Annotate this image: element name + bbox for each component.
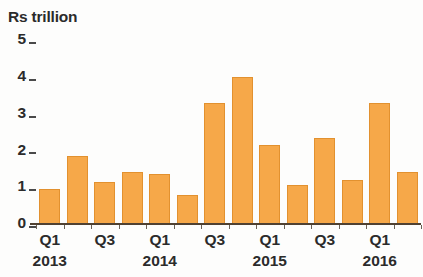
- bar[interactable]: [94, 182, 115, 224]
- bar-slot: [311, 40, 339, 224]
- x-axis-tick: [146, 225, 147, 229]
- bar-slot: [256, 40, 284, 224]
- x-axis-year-label: 2015: [253, 252, 287, 270]
- x-axis-year-label: 2014: [143, 252, 177, 270]
- x-axis-tick: [421, 225, 422, 229]
- bar-slot: [284, 40, 312, 224]
- y-axis: 543210: [0, 40, 36, 224]
- x-axis-tick: [311, 225, 312, 229]
- y-axis-tick-dash: [29, 189, 36, 191]
- plot-area: [36, 40, 421, 224]
- y-axis-tick-label: 1: [17, 178, 26, 194]
- x-axis-label: Q1: [259, 231, 280, 249]
- x-axis-label: Q3: [204, 231, 225, 249]
- bar-slot: [146, 40, 174, 224]
- bar-slot: [91, 40, 119, 224]
- y-axis-tick-label: 5: [17, 31, 26, 47]
- y-axis-tick-label: 3: [17, 105, 26, 121]
- x-axis-tick: [366, 225, 367, 229]
- x-axis-tick: [229, 225, 230, 229]
- x-axis-tick: [339, 225, 340, 229]
- x-axis-label: Q1: [39, 231, 60, 249]
- y-axis-tick-label: 2: [17, 142, 26, 158]
- x-axis-tick: [91, 225, 92, 229]
- bar[interactable]: [232, 77, 253, 224]
- bar-slot: [229, 40, 257, 224]
- x-axis-label: Q3: [314, 231, 335, 249]
- bar[interactable]: [369, 103, 390, 224]
- bar-slot: [174, 40, 202, 224]
- bar[interactable]: [342, 180, 363, 224]
- bars-layer: [36, 40, 421, 224]
- x-axis-tick: [284, 225, 285, 229]
- x-axis-labels: Q1Q3Q1Q3Q1Q3Q1: [36, 231, 421, 253]
- bar[interactable]: [149, 174, 170, 224]
- bar-slot: [366, 40, 394, 224]
- bar[interactable]: [314, 138, 335, 224]
- x-axis-tick: [64, 225, 65, 229]
- y-axis-tick-dash: [29, 42, 36, 44]
- bar[interactable]: [204, 103, 225, 224]
- x-axis-label: Q3: [94, 231, 115, 249]
- bar-slot: [36, 40, 64, 224]
- x-axis-tick: [256, 225, 257, 229]
- bar-slot: [119, 40, 147, 224]
- x-axis-ticks: [36, 225, 421, 229]
- x-axis-tick: [119, 225, 120, 229]
- y-axis-tick-dash: [29, 152, 36, 154]
- bar[interactable]: [177, 195, 198, 224]
- y-axis-tick-dash: [29, 116, 36, 118]
- chart-title: Rs trillion: [8, 8, 77, 26]
- y-axis-tick-label: 4: [17, 68, 26, 84]
- x-axis-tick: [36, 225, 37, 229]
- bar[interactable]: [67, 156, 88, 224]
- x-axis-label: Q1: [369, 231, 390, 249]
- bar-slot: [64, 40, 92, 224]
- x-axis-tick: [201, 225, 202, 229]
- bar[interactable]: [397, 172, 418, 224]
- bar-slot: [201, 40, 229, 224]
- bar[interactable]: [287, 185, 308, 224]
- y-axis-tick-label: 0: [17, 215, 26, 231]
- bar[interactable]: [259, 145, 280, 224]
- y-axis-tick-dash: [29, 79, 36, 81]
- x-axis-tick: [394, 225, 395, 229]
- bar-chart: Rs trillion 543210 Q1Q3Q1Q3Q1Q3Q1 201320…: [0, 0, 423, 277]
- bar-slot: [339, 40, 367, 224]
- x-axis-year-label: 2013: [33, 252, 67, 270]
- bar[interactable]: [122, 172, 143, 224]
- x-axis-tick: [174, 225, 175, 229]
- bar[interactable]: [39, 189, 60, 224]
- x-axis-year-labels: 2013201420152016: [36, 252, 421, 274]
- x-axis-year-label: 2016: [363, 252, 397, 270]
- y-axis-tick-dash: [29, 226, 36, 228]
- x-axis-label: Q1: [149, 231, 170, 249]
- bar-slot: [394, 40, 422, 224]
